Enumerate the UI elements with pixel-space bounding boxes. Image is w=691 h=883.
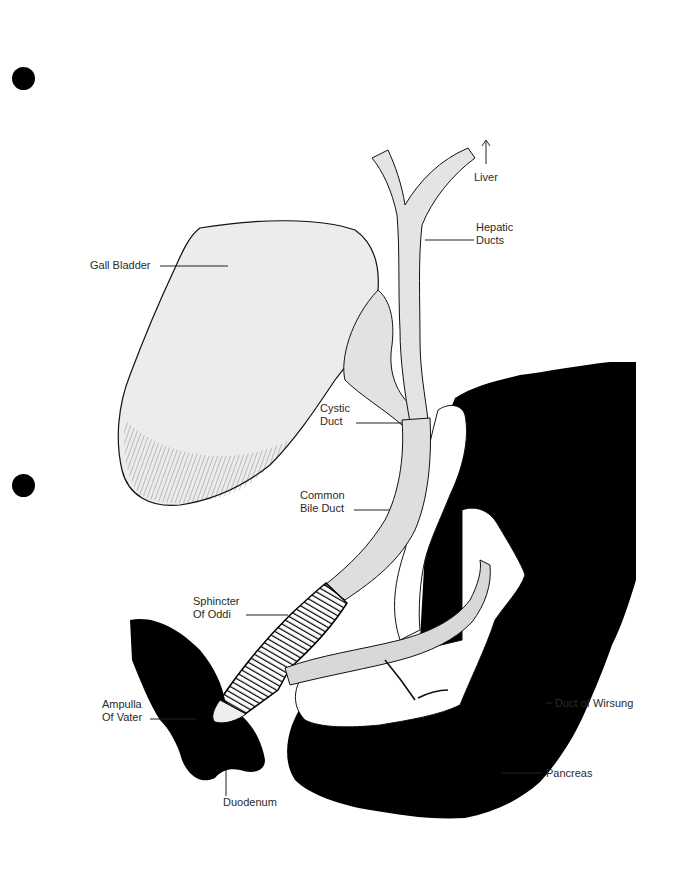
label-duct-of-wirsung: Duct of Wirsung xyxy=(555,697,633,710)
biliary-anatomy-illustration xyxy=(0,0,691,883)
label-hepatic-ducts: Hepatic Ducts xyxy=(476,221,513,247)
label-pancreas: Pancreas xyxy=(546,767,592,780)
label-duodenum: Duodenum xyxy=(223,796,277,809)
label-sphincter-of-oddi: Sphincter Of Oddi xyxy=(193,595,239,621)
label-liver: Liver xyxy=(474,171,498,184)
label-ampulla-of-vater: Ampulla Of Vater xyxy=(102,698,142,724)
label-common-bile-duct: Common Bile Duct xyxy=(300,489,345,515)
label-cystic-duct: Cystic Duct xyxy=(320,402,350,428)
label-gall-bladder: Gall Bladder xyxy=(90,259,151,272)
